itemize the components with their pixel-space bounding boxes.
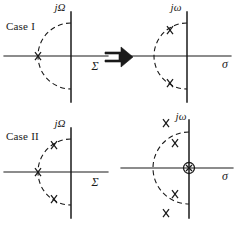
- case-2-row: Case II: [0, 112, 238, 224]
- case-2-target-plot: jω σ: [119, 112, 238, 224]
- pole-mapping-figure: Case I jΩ Σ: [0, 0, 238, 225]
- case-2-target-real-axis-label: σ: [222, 169, 229, 183]
- case-2-target-pole-lower-inner: [172, 190, 178, 198]
- case-1-target-pole-lower: [167, 79, 173, 87]
- case-1-row: Case I jΩ Σ: [0, 0, 238, 112]
- case-2-source-imag-axis-label: jΩ: [52, 117, 65, 129]
- case-2-target-pole-upper-inner: [172, 139, 178, 147]
- case-2-source-real-axis-label: Σ: [90, 175, 98, 189]
- case-2-target-imag-axis-label: jω: [174, 110, 187, 122]
- case-2-target-pole-lower-outer: [163, 209, 169, 217]
- case-1-source-real-axis-label: Σ: [90, 59, 98, 73]
- case-2-target-pole-upper-outer: [163, 119, 169, 127]
- case-2-source-plot: jΩ Σ: [0, 112, 119, 224]
- case-1-target-real-axis-label: σ: [222, 57, 229, 71]
- case-1-source-imag-axis-label: jΩ: [52, 1, 65, 13]
- case-1-target-imag-axis-label: jω: [169, 1, 182, 13]
- case-1-target-plot: jω σ: [119, 0, 238, 112]
- case-2-source-pole-lower: [51, 195, 57, 203]
- case-1-source-plot: jΩ Σ: [0, 0, 119, 112]
